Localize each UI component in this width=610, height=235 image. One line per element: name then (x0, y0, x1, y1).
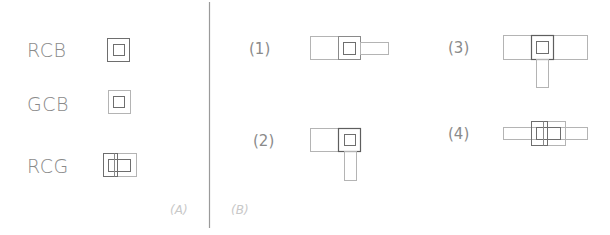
config-1: (1) (249, 37, 389, 60)
panel-a: RCB GCB RCG (A) (27, 39, 188, 218)
gcb-row: GCB (27, 91, 131, 116)
rcg-symbol-icon (104, 154, 137, 177)
panel-a-caption: (A) (170, 203, 188, 217)
gcb-label: GCB (27, 93, 69, 115)
config-4: (4) (448, 122, 588, 146)
diagram-canvas: RCB GCB RCG (A) (B) (0, 0, 610, 235)
panel-b: (B) (1) (2) (3) (231, 36, 588, 218)
rcg-row: RCG (27, 154, 137, 178)
config-3: (3) (448, 36, 588, 88)
config-4-label: (4) (448, 125, 469, 143)
config-3-symbol-icon (504, 36, 588, 88)
rcb-row: RCB (27, 39, 130, 62)
panel-b-caption: (B) (231, 203, 249, 217)
config-1-label: (1) (249, 40, 270, 58)
gcb-symbol-icon (109, 91, 131, 114)
config-2: (2) (253, 129, 361, 181)
rcg-label: RCG (27, 155, 69, 177)
rcb-symbol-icon (108, 39, 130, 62)
config-4-symbol-icon (504, 122, 588, 146)
config-2-symbol-icon (311, 129, 361, 181)
config-1-symbol-icon (311, 37, 389, 60)
rcb-label: RCB (27, 39, 66, 61)
config-3-label: (3) (448, 39, 469, 57)
config-2-label: (2) (253, 132, 274, 150)
